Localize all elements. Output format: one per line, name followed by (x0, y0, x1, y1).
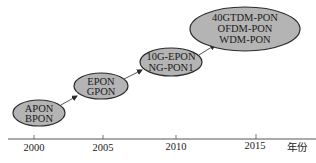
node-40gtdm-ofdm-wdm-pon: 40GTDM-PON OFDM-PON WDM-PON (190, 7, 300, 51)
time-axis: 2000 2005 2010 2015 年份 (8, 134, 316, 153)
node-label-line: NG-PON1 (149, 62, 194, 73)
node-apon-bpon: APON BPON (13, 100, 65, 126)
axis-tick-label: 2005 (93, 142, 114, 153)
axis-tick-label: 2010 (166, 141, 187, 152)
node-label-line: BPON (25, 113, 53, 124)
node-label-line: GPON (87, 86, 116, 97)
pon-evolution-timeline-diagram: APON BPON EPON GPON 10G-EPON NG-PON1 40G… (0, 0, 316, 163)
arrow-n1-to-n2 (61, 96, 77, 105)
arrow-n2-to-n3 (124, 70, 142, 79)
axis-unit-label: 年份 (287, 141, 308, 153)
node-label-line: 10G-EPON (147, 51, 196, 62)
node-10g-epon-ng-pon1: 10G-EPON NG-PON1 (140, 48, 202, 76)
node-epon-gpon: EPON GPON (74, 73, 128, 99)
node-label-line: 40GTDM-PON (212, 12, 278, 23)
axis-tick-label: 2000 (24, 142, 45, 153)
node-label-line: OFDM-PON (218, 23, 273, 34)
node-label-line: WDM-PON (219, 34, 271, 45)
axis-tick-label: 2015 (245, 140, 266, 151)
